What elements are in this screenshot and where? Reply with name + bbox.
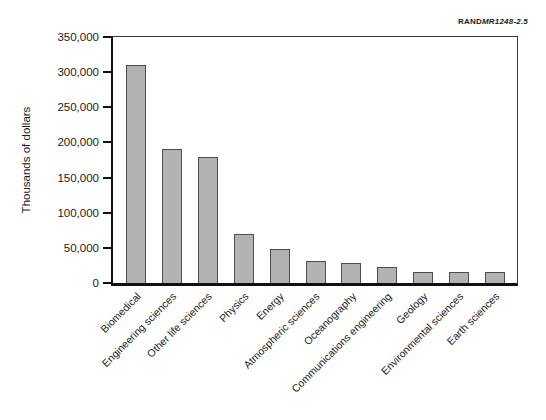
figure-doc-id: MR1248-2.5 [482, 17, 528, 26]
bar [413, 272, 433, 283]
bar [485, 272, 505, 283]
bar [198, 157, 218, 284]
y-tick-label: 300,000 [51, 66, 99, 78]
plot-area: 050,000100,000150,000200,000250,000300,0… [111, 36, 518, 286]
y-tick-label: 150,000 [51, 172, 99, 184]
y-tick-mark [103, 177, 111, 179]
x-axis-label: Other life sciences [145, 290, 215, 360]
y-tick-mark [103, 71, 111, 73]
bar [306, 261, 326, 283]
y-tick-mark [103, 141, 111, 143]
y-tick-mark [103, 247, 111, 249]
y-tick-label: 50,000 [51, 242, 99, 254]
bar [377, 267, 397, 283]
bar [162, 149, 182, 283]
y-axis-title: Thousands of dollars [20, 107, 32, 214]
x-axis-label: Energy [254, 290, 286, 322]
bar [126, 65, 146, 283]
y-tick-label: 0 [51, 277, 99, 289]
y-tick-label: 250,000 [51, 101, 99, 113]
y-tick-label: 350,000 [51, 31, 99, 43]
figure-source-label: RANDMR1248-2.5 [458, 17, 528, 26]
y-tick-mark [103, 36, 111, 38]
bar [341, 263, 361, 283]
y-tick-mark [103, 282, 111, 284]
x-axis-label: Physics [216, 290, 250, 324]
rand-brand-text: RAND [458, 17, 482, 26]
bar [234, 234, 254, 283]
y-tick-mark [103, 106, 111, 108]
y-tick-label: 200,000 [51, 136, 99, 148]
bar [449, 272, 469, 283]
y-tick-label: 100,000 [51, 207, 99, 219]
bar [270, 249, 290, 283]
figure-canvas: RANDMR1248-2.5 Thousands of dollars 050,… [0, 0, 546, 420]
y-tick-mark [103, 212, 111, 214]
